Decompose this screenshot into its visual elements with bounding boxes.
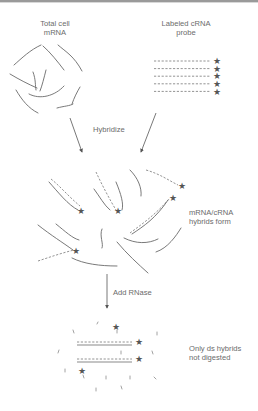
mrna-strand xyxy=(49,182,78,210)
probe-group: ★★★★★ xyxy=(154,56,221,96)
probe-strand xyxy=(130,198,170,233)
ds-star-icon: ★ xyxy=(135,337,143,347)
rna-fragment xyxy=(58,350,59,353)
mrna-strand xyxy=(124,238,158,243)
mrna-strands-group xyxy=(10,45,82,113)
mrna-strand xyxy=(132,200,168,234)
mrna-strand xyxy=(101,229,102,248)
rna-fragment xyxy=(121,386,122,389)
mrna-strand xyxy=(43,46,64,70)
probe-star-icon: ★ xyxy=(169,193,177,203)
probe-strand xyxy=(38,250,74,261)
mrna-strand xyxy=(16,90,38,113)
mrna-strand xyxy=(56,224,79,240)
mrna-strand xyxy=(10,74,37,88)
arrow-probe-to-hybrid xyxy=(141,113,156,152)
mrna-strand xyxy=(156,228,181,252)
probe-star-icon: ★ xyxy=(72,246,80,256)
free-star-icon: ★ xyxy=(112,322,120,332)
mrna-strand xyxy=(29,86,64,97)
mrna-strand xyxy=(38,225,73,250)
mrna-strand xyxy=(72,87,80,104)
mrna-strand xyxy=(94,189,110,210)
ds-star-icon: ★ xyxy=(135,354,143,364)
rna-fragment xyxy=(152,351,153,354)
probe-strand xyxy=(146,170,178,185)
digest-result: ★ ★ ★ ★ xyxy=(58,322,157,391)
probe-star-icon: ★ xyxy=(77,206,85,216)
mrna-strand xyxy=(117,242,148,273)
diagram-canvas: ★★★★★ ★ ★ ★ ★ ★ ★ ★ ★ xyxy=(0,0,258,411)
probe-strand xyxy=(51,179,80,206)
probe-star-icon: ★ xyxy=(178,181,186,191)
hybrid-cluster: ★ ★ ★ ★ ★ xyxy=(38,170,186,273)
rna-fragment xyxy=(73,330,74,333)
probe-star-icon: ★ xyxy=(114,206,122,216)
probe-label-star-icon: ★ xyxy=(213,87,221,97)
probe-strand xyxy=(96,172,116,210)
rna-fragment xyxy=(154,377,156,379)
arrow-mrna-to-hybrid xyxy=(70,118,82,152)
mrna-strand xyxy=(130,170,141,196)
mrna-strand xyxy=(14,45,41,65)
rna-fragment xyxy=(97,322,98,324)
mrna-strand xyxy=(40,70,46,91)
free-star-icon: ★ xyxy=(78,366,86,376)
mrna-strand xyxy=(72,258,117,266)
mrna-strand xyxy=(57,104,73,108)
